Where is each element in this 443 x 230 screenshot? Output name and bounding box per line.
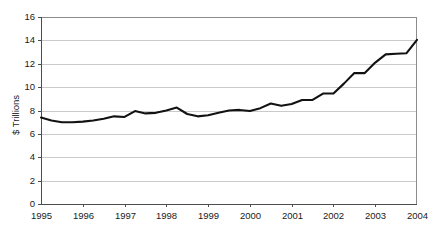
y-tick-label: 16	[24, 11, 35, 22]
x-tick-label: 1997	[115, 210, 136, 221]
x-tick-label: 1999	[198, 210, 219, 221]
y-tick-label: 14	[24, 34, 35, 45]
x-tick-label: 2001	[282, 210, 303, 221]
x-tick-label: 1995	[31, 210, 52, 221]
y-tick-label: 8	[30, 105, 35, 116]
x-tick-label: 2003	[365, 210, 386, 221]
y-tick-label: 4	[30, 151, 35, 162]
y-tick-label: 6	[30, 128, 35, 139]
line-chart: 0246810121416 19951996199719981999200020…	[0, 0, 443, 230]
y-axis-title-group: $ Trillions	[10, 95, 21, 135]
y-tick-label: 10	[24, 81, 35, 92]
x-tick-label: 2000	[240, 210, 261, 221]
x-tick-label: 2002	[323, 210, 344, 221]
y-tick-label: 0	[30, 198, 35, 209]
x-tick-label: 1998	[156, 210, 177, 221]
chart-container: 0246810121416 19951996199719981999200020…	[0, 0, 443, 230]
y-axis-title: $ Trillions	[10, 95, 21, 135]
chart-background	[0, 0, 443, 230]
y-tick-label: 12	[24, 58, 35, 69]
x-tick-label: 2004	[407, 210, 428, 221]
x-tick-label: 1996	[73, 210, 94, 221]
y-tick-label: 2	[30, 175, 35, 186]
